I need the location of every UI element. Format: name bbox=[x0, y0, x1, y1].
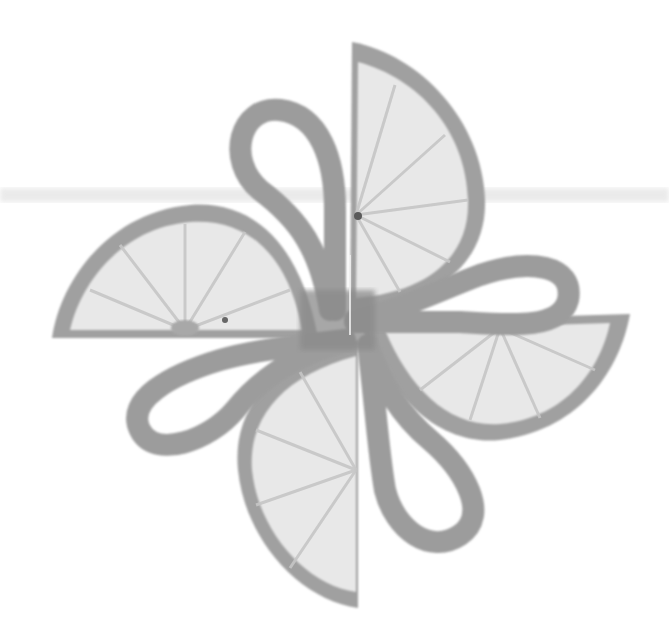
photo-canvas bbox=[0, 0, 669, 641]
lemon-slice-left bbox=[52, 205, 318, 338]
lemon-pinwheel-photo: Four lemon half-slices arranged in a pin… bbox=[0, 0, 669, 641]
peel-center bbox=[300, 290, 375, 350]
